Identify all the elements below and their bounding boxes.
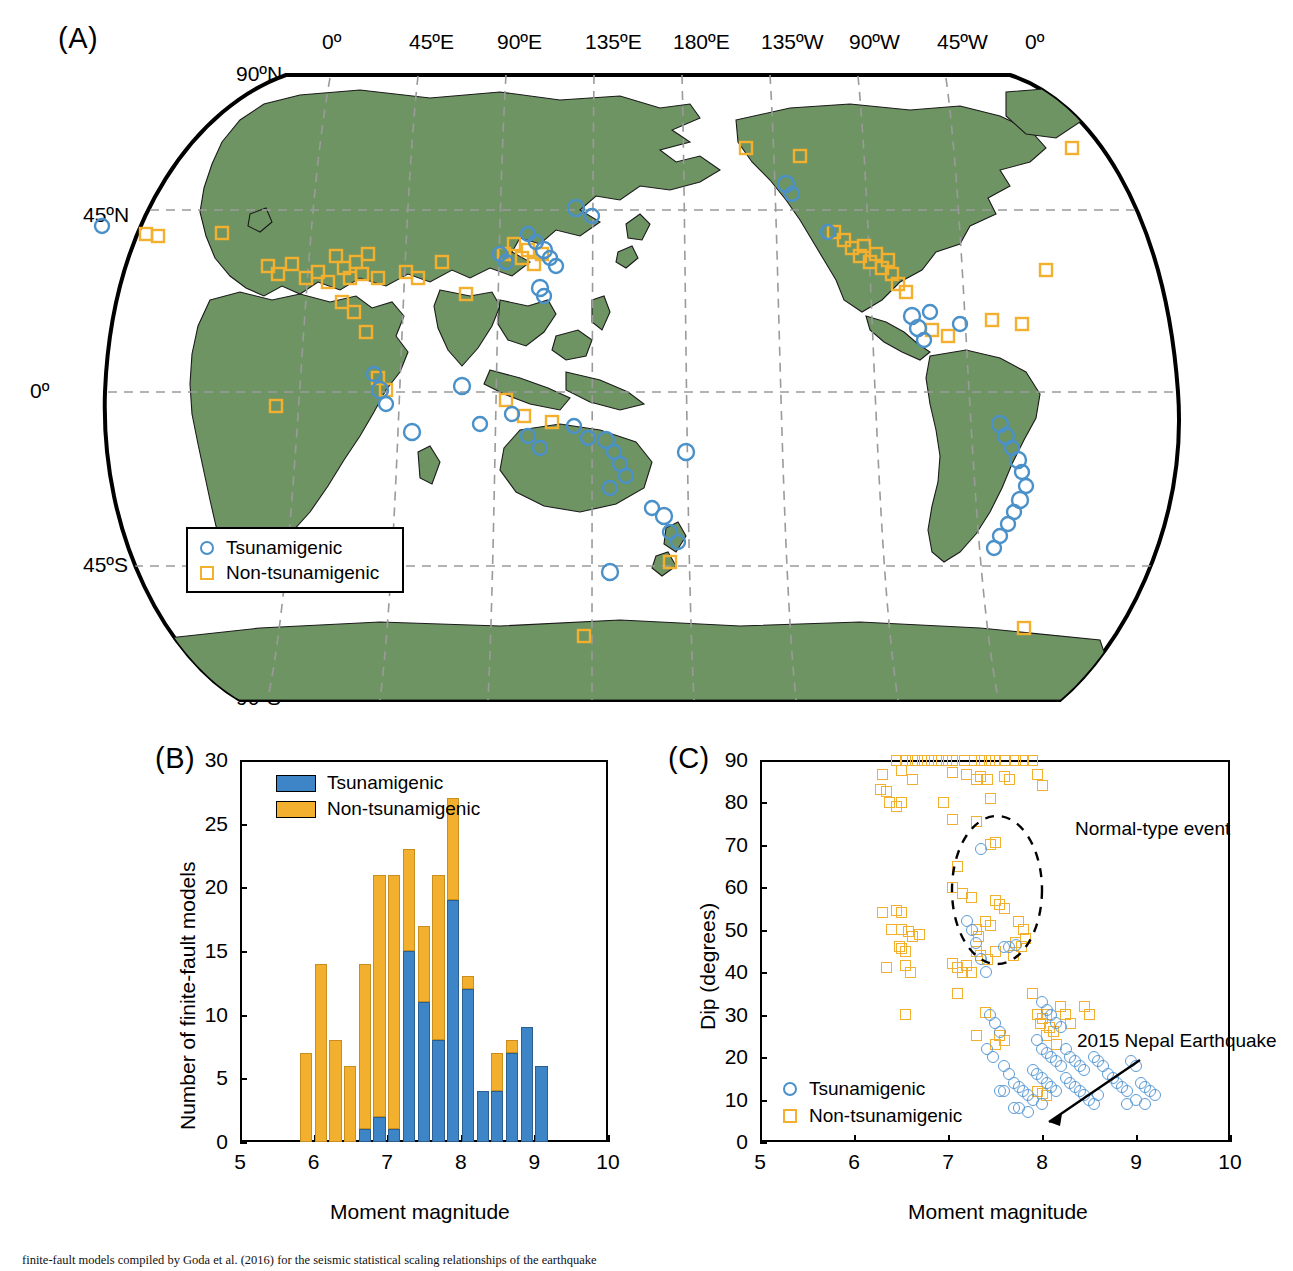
histogram-bar-tsunamigenic [373, 1117, 385, 1142]
x-tick-label: 6 [308, 1150, 320, 1174]
scatter-y-axis-title: Dip (degrees) [696, 903, 720, 1030]
y-tick-label: 80 [725, 790, 748, 814]
y-tick-label: 90 [725, 748, 748, 772]
y-tick-label: 60 [725, 875, 748, 899]
y-tick [760, 1057, 767, 1059]
histogram-bar-tsunamigenic [418, 1002, 430, 1142]
y-tick-label: 50 [725, 918, 748, 942]
swatch-non-tsunamigenic-icon [276, 801, 316, 818]
y-tick [760, 1100, 767, 1102]
normal-type-ellipse [952, 816, 1042, 964]
x-tick [1136, 1135, 1138, 1142]
x-tick-label: 10 [596, 1150, 619, 1174]
circle-marker-icon [200, 541, 214, 555]
y-tick-label: 25 [205, 812, 228, 836]
x-tick [854, 1135, 856, 1142]
y-tick [240, 824, 247, 826]
histogram-bar-tsunamigenic [535, 1066, 547, 1142]
histogram-bar-non-tsunamigenic [491, 1053, 503, 1091]
y-tick-label: 30 [725, 1003, 748, 1027]
y-tick-label: 20 [725, 1045, 748, 1069]
histogram-bar-non-tsunamigenic [388, 875, 400, 1130]
histogram-bar-non-tsunamigenic [329, 1040, 341, 1142]
y-tick [240, 1015, 247, 1017]
histogram-bar-non-tsunamigenic [373, 875, 385, 1117]
histogram-bar-tsunamigenic [462, 989, 474, 1142]
histogram-legend-item-non-tsunamigenic: Non-tsunamigenic [276, 798, 480, 820]
y-tick [240, 1078, 247, 1080]
histogram-bar-non-tsunamigenic [359, 964, 371, 1130]
y-tick [760, 845, 767, 847]
histogram-bar-tsunamigenic [521, 1027, 533, 1142]
y-tick-label: 30 [205, 748, 228, 772]
panel-c-tag: (C) [668, 742, 710, 775]
histogram-bar-tsunamigenic [403, 951, 415, 1142]
normal-type-event-annotation: Normal-type event [1075, 818, 1230, 840]
histogram-legend-item-tsunamigenic: Tsunamigenic [276, 772, 480, 794]
scatter-legend: Tsunamigenic Non-tsunamigenic [783, 1078, 962, 1127]
y-tick-label: 0 [736, 1130, 748, 1154]
y-tick-label: 5 [216, 1066, 228, 1090]
nepal-arrow-line [1049, 1060, 1140, 1122]
x-tick-label: 7 [381, 1150, 393, 1174]
x-tick-label: 5 [754, 1150, 766, 1174]
x-tick-label: 7 [942, 1150, 954, 1174]
map-graphic [0, 0, 1293, 730]
histogram-x-axis-title: Moment magnitude [330, 1200, 510, 1224]
histogram-bar-non-tsunamigenic [315, 964, 327, 1142]
y-tick-label: 20 [205, 875, 228, 899]
y-tick-label: 15 [205, 939, 228, 963]
histogram-legend: Tsunamigenic Non-tsunamigenic [276, 772, 480, 820]
map-legend: Tsunamigenic Non-tsunamigenic [186, 527, 404, 593]
histogram-panel: (B) Tsunamigenic Non-tsunamigenic Moment… [0, 730, 640, 1250]
x-tick [1230, 1135, 1232, 1142]
panel-b-tag: (B) [155, 742, 195, 775]
histogram-bar-non-tsunamigenic [403, 849, 415, 951]
world-map-panel: (A) 0º 45ºE 90ºE 135ºE 180ºE 135ºW 90ºW … [0, 0, 1293, 730]
x-tick [608, 1135, 610, 1142]
histogram-bar-non-tsunamigenic [344, 1066, 356, 1142]
histogram-legend-label-tsunamigenic: Tsunamigenic [327, 772, 443, 794]
x-tick [1042, 1135, 1044, 1142]
y-tick [760, 972, 767, 974]
y-tick-label: 10 [725, 1088, 748, 1112]
scatter-legend-item-non-tsunamigenic: Non-tsunamigenic [783, 1105, 962, 1127]
square-marker-icon [200, 566, 214, 580]
scatter-legend-label-non-tsunamigenic: Non-tsunamigenic [809, 1105, 962, 1127]
x-tick [240, 1135, 242, 1142]
histogram-bar-tsunamigenic [447, 900, 459, 1142]
x-tick-label: 5 [234, 1150, 246, 1174]
y-tick [240, 1142, 247, 1144]
y-tick-label: 40 [725, 960, 748, 984]
scatter-legend-label-tsunamigenic: Tsunamigenic [809, 1078, 925, 1100]
y-tick [760, 802, 767, 804]
x-tick [948, 1135, 950, 1142]
y-tick [760, 887, 767, 889]
histogram-y-axis-title: Number of finite-fault models [176, 862, 200, 1130]
y-tick [760, 1142, 767, 1144]
x-tick-label: 9 [1130, 1150, 1142, 1174]
y-tick [240, 951, 247, 953]
y-tick [760, 930, 767, 932]
histogram-bar-tsunamigenic [477, 1091, 489, 1142]
histogram-bar-tsunamigenic [388, 1129, 400, 1142]
swatch-tsunamigenic-icon [276, 775, 316, 792]
nepal-earthquake-annotation: 2015 Nepal Earthquake [1077, 1030, 1277, 1052]
map-legend-item-non-tsunamigenic: Non-tsunamigenic [200, 562, 402, 584]
x-tick-label: 8 [1036, 1150, 1048, 1174]
circle-marker-icon [783, 1082, 797, 1096]
x-tick [760, 1135, 762, 1142]
histogram-bar-non-tsunamigenic [432, 875, 444, 1041]
y-tick [760, 760, 767, 762]
histogram-bar-non-tsunamigenic [300, 1053, 312, 1142]
histogram-bar-tsunamigenic [506, 1053, 518, 1142]
y-tick [760, 1015, 767, 1017]
x-tick-label: 10 [1218, 1150, 1241, 1174]
y-tick-label: 10 [205, 1003, 228, 1027]
square-marker-icon [783, 1109, 797, 1123]
y-tick [240, 760, 247, 762]
x-tick-label: 8 [455, 1150, 467, 1174]
map-legend-item-tsunamigenic: Tsunamigenic [200, 537, 402, 559]
histogram-bar-non-tsunamigenic [418, 926, 430, 1002]
y-tick-label: 70 [725, 833, 748, 857]
